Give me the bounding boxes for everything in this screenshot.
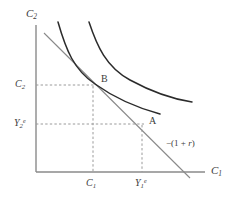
x-axis-title-subscript: 1: [218, 169, 222, 178]
x-tick-y1e-superscript: e: [144, 177, 147, 184]
y-axis-title: C2: [26, 8, 37, 21]
y-tick-label-c2: C2: [15, 79, 25, 91]
x-tick-c1-base: C: [86, 177, 93, 188]
slope-annotation: −(1 + r): [166, 139, 195, 148]
point-a-label: A: [149, 116, 156, 126]
x-tick-label-y1e: Y1e: [135, 178, 147, 190]
indifference-curve-lower: [58, 22, 160, 114]
slope-annotation-suffix: ): [192, 138, 195, 148]
x-tick-c1-subscript: 1: [93, 182, 96, 189]
y-tick-label-y2e: Y2e: [14, 118, 26, 130]
budget-line: [44, 33, 190, 178]
x-tick-label-c1: C1: [86, 178, 96, 190]
y-tick-y2e-superscript: e: [23, 117, 26, 124]
point-b-label: B: [101, 74, 108, 84]
slope-annotation-prefix: −(1 +: [166, 138, 188, 148]
y-tick-c2-subscript: 2: [22, 83, 25, 90]
x-axis-title: C1: [211, 165, 222, 178]
y-axis-title-subscript: 2: [33, 12, 37, 21]
y-tick-c2-base: C: [15, 78, 22, 89]
indifference-curve-figure: C2 C1 C2 Y2e C1 Y1e B A −(1 + r): [0, 0, 240, 202]
plot-area: [0, 0, 240, 202]
